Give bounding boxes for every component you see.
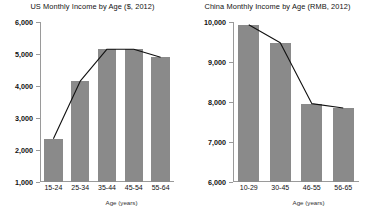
x-axis-label: 35-44 <box>94 184 121 191</box>
x-axis-label: 46-55 <box>296 184 328 191</box>
x-axis-label: 56-65 <box>328 184 360 191</box>
x-axis-label: 10-29 <box>233 184 265 191</box>
y-tick-label-us-3: 4,000 <box>15 82 33 91</box>
chart-panel-us: US Monthly Income by Age ($, 2012) 1,000… <box>0 0 185 218</box>
chart-title-us: US Monthly Income by Age ($, 2012) <box>0 2 185 11</box>
bar-cell <box>233 22 265 182</box>
y-tick-label-us-2: 3,000 <box>15 114 33 123</box>
bar-group-us <box>40 22 174 182</box>
plot-area-us: 1,0002,0003,0004,0005,0006,000 <box>40 22 174 182</box>
x-axis-label: 30-45 <box>265 184 297 191</box>
y-tick-label-china-0: 6,000 <box>208 178 226 187</box>
y-tick-label-us-4: 5,000 <box>15 50 33 59</box>
x-axis-title-us: Age (years) <box>0 199 185 206</box>
plot-area-china: 6,0007,0008,0009,00010,000 <box>233 22 359 182</box>
bar-cell <box>120 22 147 182</box>
y-tick-label-china-2: 8,000 <box>208 98 226 107</box>
x-axis-label: 45-54 <box>120 184 147 191</box>
bar <box>151 57 169 182</box>
bar-cell <box>265 22 297 182</box>
x-axis-label: 15-24 <box>40 184 67 191</box>
bar-cell <box>67 22 94 182</box>
y-tick-label-us-1: 2,000 <box>15 146 33 155</box>
y-tick-china-0 <box>229 182 233 183</box>
bar <box>125 49 143 182</box>
bar <box>44 139 62 182</box>
x-axis-labels-china: 10-2930-4546-5556-65 <box>233 184 359 191</box>
y-tick-label-china-4: 10,000 <box>204 18 226 27</box>
chart-panel-china: China Monthly Income by Age (RMB, 2012) … <box>185 0 370 218</box>
bar-cell <box>94 22 121 182</box>
y-tick-label-china-3: 9,000 <box>208 58 226 67</box>
bar <box>98 49 116 182</box>
y-tick-label-us-5: 6,000 <box>15 18 33 27</box>
bar <box>238 25 259 182</box>
y-tick-label-china-1: 7,000 <box>208 138 226 147</box>
x-axis-title-china: Age (years) <box>185 199 370 206</box>
bar-cell <box>296 22 328 182</box>
bar-cell <box>40 22 67 182</box>
y-tick-us-0 <box>36 182 40 183</box>
bar <box>270 43 291 182</box>
bar-cell <box>147 22 174 182</box>
bar <box>333 108 354 182</box>
x-axis-label: 25-34 <box>67 184 94 191</box>
x-axis-label: 55-64 <box>147 184 174 191</box>
y-tick-label-us-0: 1,000 <box>15 178 33 187</box>
chart-title-china: China Monthly Income by Age (RMB, 2012) <box>185 2 370 11</box>
bar-cell <box>328 22 360 182</box>
bar-group-china <box>233 22 359 182</box>
x-axis-labels-us: 15-2425-3435-4445-5455-64 <box>40 184 174 191</box>
bar <box>301 104 322 182</box>
bar <box>71 81 89 182</box>
figure-two-panel-bar-charts: US Monthly Income by Age ($, 2012) 1,000… <box>0 0 370 218</box>
